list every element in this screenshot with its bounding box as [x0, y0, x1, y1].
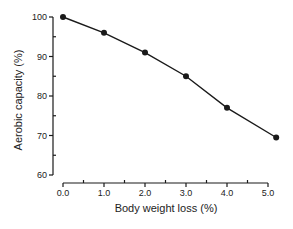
x-tick-label: 1.0	[98, 188, 111, 198]
data-point-marker	[142, 50, 148, 56]
x-tick-label: 5.0	[262, 188, 275, 198]
data-series	[60, 14, 279, 140]
data-point-marker	[183, 73, 189, 79]
data-point-marker	[60, 14, 66, 20]
x-tick-label: 2.0	[139, 188, 152, 198]
series-line	[63, 17, 276, 137]
line-chart: 60708090100 0.01.02.03.04.05.0 Aerobic c…	[0, 0, 293, 229]
y-axis-label: Aerobic capacity (%)	[12, 50, 24, 151]
y-axis: 60708090100	[32, 12, 56, 180]
y-tick-label: 90	[37, 52, 47, 62]
data-point-marker	[224, 105, 230, 111]
x-tick-label: 4.0	[221, 188, 234, 198]
y-tick-label: 60	[37, 170, 47, 180]
x-axis: 0.01.02.03.04.05.0	[57, 180, 275, 198]
y-tick-label: 70	[37, 131, 47, 141]
y-tick-label: 80	[37, 91, 47, 101]
x-tick-label: 0.0	[57, 188, 70, 198]
x-tick-label: 3.0	[180, 188, 193, 198]
data-point-marker	[273, 134, 279, 140]
y-tick-label: 100	[32, 12, 47, 22]
x-axis-label: Body weight loss (%)	[115, 202, 218, 214]
data-point-marker	[101, 30, 107, 36]
